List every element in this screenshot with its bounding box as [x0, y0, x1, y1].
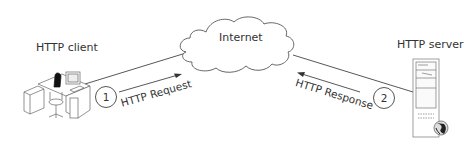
client-label: HTTP client: [36, 41, 98, 54]
globe-icon: [434, 121, 448, 135]
internet-label: Internet: [219, 31, 263, 44]
cloud-icon: [180, 17, 294, 72]
server-label: HTTP server: [397, 38, 463, 51]
step-2-badge: 2: [373, 87, 395, 109]
client-internet-link: [85, 53, 186, 84]
workstation-icon: [24, 72, 90, 118]
step-1-badge: 1: [95, 86, 117, 108]
diagram-canvas: [0, 0, 476, 142]
